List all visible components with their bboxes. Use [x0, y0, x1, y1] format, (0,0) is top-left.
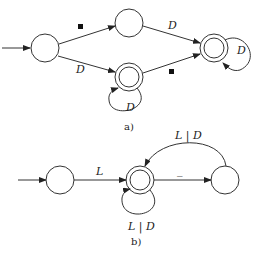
state-b1: [126, 166, 154, 194]
diagram-b: L _ L | D L | D b): [18, 129, 239, 247]
state-b2: [211, 166, 239, 194]
edge-a0-a2: [58, 56, 115, 72]
state-a0: [31, 34, 59, 62]
automata-diagram: D D D D a) L _ L | D L | D b): [0, 0, 257, 255]
symbol-square: [169, 69, 174, 74]
label-b0-b1: L: [95, 165, 103, 178]
label-a3-loop: D: [236, 44, 246, 57]
symbol-square: [78, 24, 83, 29]
state-a2: [115, 63, 143, 91]
state-a1: [115, 9, 143, 37]
caption-b: b): [131, 236, 141, 247]
state-b0: [46, 166, 74, 194]
label-b1-b2: _: [177, 164, 183, 177]
caption-a: a): [124, 121, 134, 132]
state-a3: [200, 34, 228, 62]
label-b2-b1: L | D: [174, 129, 202, 143]
edge-a0-a1: [59, 26, 115, 44]
label-a2-loop: D: [125, 101, 135, 114]
edge-b2-b1: [145, 143, 226, 166]
label-b1-loop: L | D: [127, 220, 155, 234]
label-a1-a3: D: [167, 19, 177, 32]
label-a0-a2: D: [75, 63, 85, 76]
diagram-a: D D D D a): [2, 9, 250, 132]
